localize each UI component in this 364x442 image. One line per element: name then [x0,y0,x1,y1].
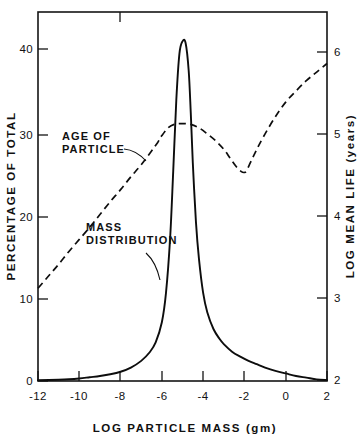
x-axis-labels: -12 -10 -8 -6 -4 -2 0 2 [29,390,330,402]
annotation-mass-distribution: MASS DISTRIBUTION [86,221,177,280]
y2-ticklabel-5: 5 [334,128,341,140]
annotation-age-line2: PARTICLE [62,143,125,155]
y-ticklabel-40: 40 [19,43,33,55]
annotation-mass-leader-line [146,253,160,280]
x-ticklabel-2: 2 [324,390,331,402]
y-ticklabel-0: 0 [26,375,33,387]
annotation-mass-line1: MASS [86,221,122,233]
y-ticklabel-30: 30 [19,129,33,141]
y-axis-left-labels: 40 30 20 10 0 [19,43,33,387]
x-ticklabel-neg2: -2 [238,390,249,402]
y-axis-right-ticks [317,52,327,380]
series-mass-distribution-curve [38,40,327,380]
y-axis-right-title: LOG MEAN LIFE (years) [344,114,356,279]
chart-svg: 40 30 20 10 0 6 5 4 3 2 [0,0,364,442]
annotation-age-leader-line [124,149,146,161]
x-ticklabel-neg8: -8 [114,390,125,402]
y-axis-left-title: PERCENTAGE OF TOTAL [5,111,17,280]
y-ticklabel-20: 20 [19,211,33,223]
x-axis-title: LOG PARTICLE MASS (gm) [93,422,277,434]
annotation-mass-line2: DISTRIBUTION [86,234,177,246]
y2-ticklabel-2: 2 [334,374,341,386]
series-age-of-particle-curve [38,63,327,288]
x-ticklabel-neg6: -6 [156,390,167,402]
y2-ticklabel-4: 4 [334,210,341,222]
y2-ticklabel-3: 3 [334,292,341,304]
plot-frame [38,12,327,381]
figure-container: 40 30 20 10 0 6 5 4 3 2 [0,0,364,442]
y2-ticklabel-6: 6 [334,46,341,58]
annotation-age-line1: AGE OF [62,130,111,142]
y-axis-right-labels: 6 5 4 3 2 [334,46,341,386]
x-ticklabel-neg12: -12 [29,390,47,402]
x-ticklabel-neg10: -10 [70,390,88,402]
y-ticklabel-10: 10 [19,293,33,305]
annotation-age-of-particle: AGE OF PARTICLE [62,130,146,161]
x-ticklabel-neg4: -4 [197,390,208,402]
x-ticklabel-0: 0 [283,390,290,402]
y-axis-left-ticks [38,49,48,381]
